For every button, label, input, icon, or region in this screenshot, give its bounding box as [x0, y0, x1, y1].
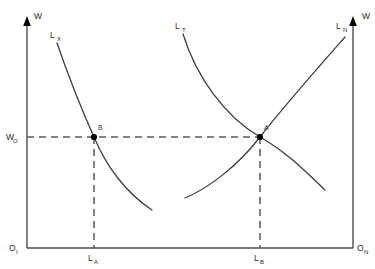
left-axis — [23, 16, 31, 248]
left-origin-sub: I — [16, 249, 18, 255]
wage-level-label: W O — [6, 132, 18, 144]
curve-lt — [183, 34, 325, 190]
right-origin-base: O — [357, 243, 364, 253]
left-origin-label: O I — [9, 243, 18, 255]
right-origin-label: O N — [357, 243, 368, 255]
point-a-marker — [257, 134, 263, 140]
point-b-marker — [91, 134, 97, 140]
point-b-label: B — [98, 124, 103, 131]
left-axis-label: W — [34, 11, 42, 21]
curve-lt-label-sub: T — [182, 27, 186, 33]
tick-la-sub: A — [94, 259, 98, 265]
curve-lx — [57, 43, 152, 210]
tick-la: L A — [88, 253, 98, 265]
curve-ln-label-sub: N — [343, 27, 347, 33]
left-origin-base: O — [9, 243, 16, 253]
curve-lt-label-base: L — [175, 21, 180, 31]
curve-lx-label-sub: X — [57, 36, 61, 42]
right-axis-label: W — [362, 11, 370, 21]
right-axis — [349, 16, 357, 248]
point-a-label: A — [264, 124, 269, 131]
curve-ln-label: L N — [336, 21, 347, 33]
curve-lx-label-base: L — [50, 30, 55, 40]
point-a: A — [257, 124, 269, 140]
curve-ln-label-base: L — [336, 21, 341, 31]
diagram-canvas: W W O I O N W O L X L T — [0, 0, 375, 269]
right-origin-sub: N — [364, 249, 368, 255]
wage-level-sub: O — [13, 138, 18, 144]
curve-lt-label: L T — [175, 21, 186, 33]
labour-market-box-diagram: W W O I O N W O L X L T — [0, 0, 375, 269]
curve-ln — [185, 37, 345, 198]
tick-lb-base: L — [254, 253, 259, 263]
tick-lb: L B — [254, 253, 264, 265]
tick-la-base: L — [88, 253, 93, 263]
tick-lb-sub: B — [260, 259, 264, 265]
curve-lx-label: L X — [50, 30, 61, 42]
